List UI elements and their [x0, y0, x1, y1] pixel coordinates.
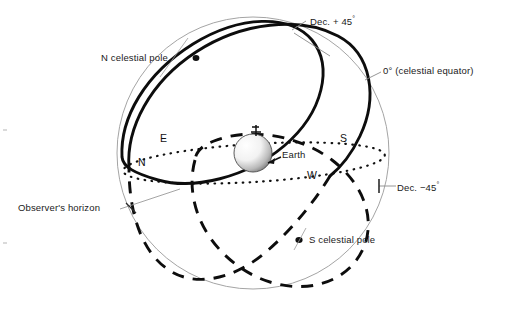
cardinal-point-west: W: [307, 170, 317, 181]
celestial-equator-label: 0° (celestial equator): [383, 66, 474, 76]
degree-symbol-minus: °: [437, 181, 440, 188]
diagram-canvas: [0, 0, 509, 312]
cardinal-point-east: E: [160, 133, 167, 144]
north-celestial-pole-dot: [193, 55, 200, 61]
s-celestial-pole-label: S celestial pole: [309, 235, 375, 245]
earth-label: Earth: [282, 150, 305, 160]
celestial-equator-hidden: [129, 168, 330, 279]
cardinal-point-south: S: [340, 133, 347, 144]
celestial-sphere-figure: Dec. + 45° 0° (celestial equator) Dec. −…: [0, 0, 509, 312]
observers-horizon-label: Observer's horizon: [18, 203, 100, 213]
cardinal-point-north: N: [138, 157, 146, 168]
dec-plus-45-leader-line-2: [294, 33, 330, 56]
n-celestial-pole-label: N celestial pole: [101, 53, 168, 63]
degree-symbol-plus: °: [352, 15, 355, 22]
dec-plus-45-label: Dec. + 45°: [310, 15, 355, 27]
earth-sphere: [234, 134, 272, 172]
dec-minus-45-label: Dec. −45°: [397, 181, 439, 193]
